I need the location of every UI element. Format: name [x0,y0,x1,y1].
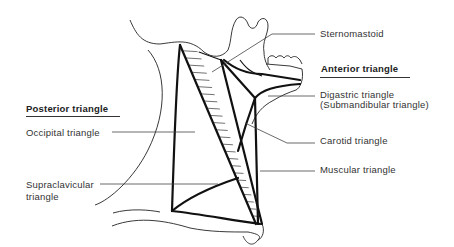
label-occipital-triangle: Occipital triangle [26,127,100,138]
label-sternomastoid: Sternomastoid [320,28,384,39]
label-supraclavicular-triangle: Supraclavicular [26,179,94,190]
label-supraclavicular-triangle-line2: triangle [26,191,59,202]
label-posterior-triangle: Posterior triangle [26,103,108,114]
posterior-triangle-underline [26,116,120,117]
neck-drawing [0,0,454,247]
anterior-triangle-underline [320,77,410,78]
label-muscular-triangle: Muscular triangle [320,164,396,175]
label-carotid-triangle: Carotid triangle [320,135,388,146]
label-submandibular-triangle: (Submandibular triangle) [320,99,429,110]
neck-triangles-diagram: Sternomastoid Anterior triangle Digastri… [0,0,454,247]
triangle-borders [172,45,300,224]
neck-outline [95,17,303,244]
label-anterior-triangle: Anterior triangle [321,63,398,74]
